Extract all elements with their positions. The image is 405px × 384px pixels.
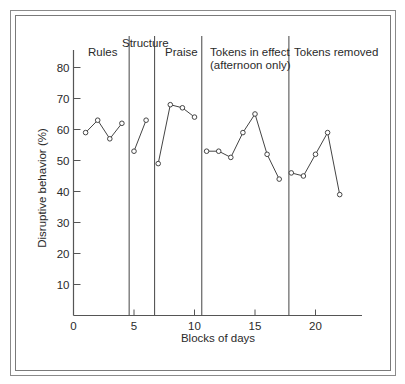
data-point (204, 149, 209, 154)
data-point (156, 161, 161, 166)
x-tick-label: 20 (309, 320, 322, 332)
data-point (180, 106, 185, 111)
data-point (168, 102, 173, 107)
x-tick-label: 0 (70, 320, 76, 332)
data-point (265, 152, 270, 157)
data-point (277, 177, 282, 182)
x-axis-label: Blocks of days (181, 332, 255, 344)
y-tick-label: 20 (57, 248, 70, 260)
y-tick-label: 10 (57, 279, 70, 291)
phase-label-line2: (afternoon only) (210, 59, 291, 71)
y-tick-label: 80 (57, 62, 70, 74)
data-point (229, 155, 234, 160)
data-point (120, 121, 125, 126)
y-axis-label: Disruptive behavior (%) (36, 128, 48, 248)
phase-label: Tokens removed (294, 46, 378, 58)
data-point (83, 130, 88, 135)
phase-label: Structure (122, 37, 169, 49)
data-point (192, 115, 197, 120)
data-point (325, 130, 330, 135)
data-series (83, 102, 342, 197)
y-tick-label: 40 (57, 186, 70, 198)
series-line (207, 114, 280, 179)
x-tick-label: 10 (188, 320, 201, 332)
phase-label: Tokens in effect (210, 46, 291, 58)
phase-label: Praise (165, 46, 198, 58)
data-point (301, 174, 306, 179)
x-tick-label: 15 (249, 320, 262, 332)
data-point (216, 149, 221, 154)
y-tick-label: 70 (57, 93, 70, 105)
data-point (313, 152, 318, 157)
series-line (134, 120, 146, 151)
phase-label: Rules (88, 46, 118, 58)
chart-canvas: 102030405060708005101520 RulesStructureP… (0, 0, 405, 384)
phase-lines: RulesStructurePraiseTokens in effect(aft… (88, 36, 378, 316)
series-line (86, 120, 122, 139)
data-point (144, 118, 149, 123)
y-tick-label: 60 (57, 124, 70, 136)
data-point (289, 171, 294, 176)
data-point (253, 112, 258, 117)
data-point (108, 137, 113, 142)
data-point (132, 149, 137, 154)
data-point (95, 118, 100, 123)
y-tick-label: 30 (57, 217, 70, 229)
data-point (241, 130, 246, 135)
series-line (291, 133, 339, 195)
axes: 102030405060708005101520 (57, 50, 362, 332)
data-point (337, 192, 342, 197)
y-tick-label: 50 (57, 155, 70, 167)
series-line (158, 105, 194, 164)
x-tick-label: 5 (131, 320, 137, 332)
